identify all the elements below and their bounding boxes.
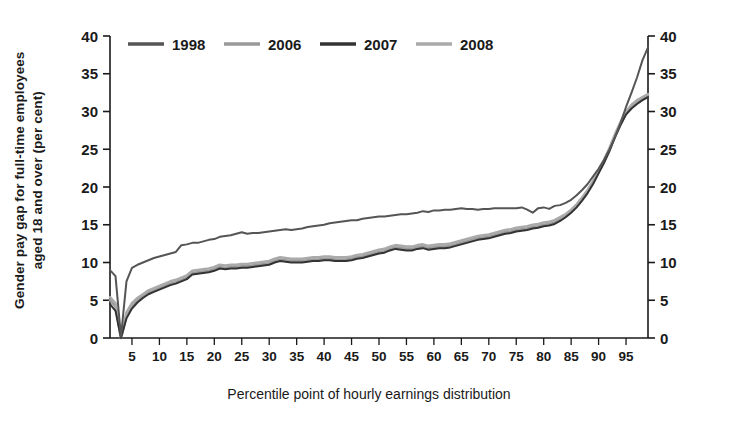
x-axis-tick-label: 85 xyxy=(564,349,580,364)
x-axis-tick-label: 90 xyxy=(591,349,606,364)
x-axis-tick-label: 5 xyxy=(128,349,136,364)
x-axis-tick-label: 80 xyxy=(536,349,551,364)
x-axis-tick-label: 65 xyxy=(454,349,470,364)
x-axis-tick-label: 50 xyxy=(371,349,386,364)
y-axis-tick-label-right: 15 xyxy=(660,216,677,233)
series-group xyxy=(110,47,648,338)
x-axis-label: Percentile point of hourly earnings dist… xyxy=(0,386,738,402)
y-axis-tick-label-left: 30 xyxy=(81,103,98,120)
y-axis-tick-label-left: 10 xyxy=(81,254,98,271)
legend-label-2006: 2006 xyxy=(268,36,301,53)
x-axis-tick-label: 30 xyxy=(262,349,277,364)
legend-label-1998: 1998 xyxy=(172,36,205,53)
y-axis-tick-label-right: 40 xyxy=(660,28,677,45)
y-axis-tick-label-right: 25 xyxy=(660,141,677,158)
y-axis-tick-label-left: 20 xyxy=(81,179,98,196)
x-axis-tick-label: 10 xyxy=(152,349,167,364)
x-axis-tick-label: 15 xyxy=(179,349,195,364)
chart-container: Gender pay gap for full-time employees a… xyxy=(0,0,738,425)
x-axis-tick-label: 25 xyxy=(234,349,250,364)
y-axis-tick-label-left: 5 xyxy=(90,292,98,309)
x-axis-tick-label: 40 xyxy=(317,349,332,364)
x-axis-tick-label: 55 xyxy=(399,349,415,364)
x-axis-tick-label: 45 xyxy=(344,349,360,364)
y-axis-tick-label-left: 0 xyxy=(90,330,98,347)
x-axis-tick-label: 60 xyxy=(426,349,441,364)
series-line-2007 xyxy=(110,97,648,338)
series-line-1998 xyxy=(110,47,648,336)
y-axis-tick-label-right: 0 xyxy=(660,330,668,347)
y-axis-tick-label-left: 35 xyxy=(81,65,98,82)
x-axis-tick-label: 95 xyxy=(619,349,635,364)
chart-plot: 0510152025303540051015202530354051015202… xyxy=(0,0,738,425)
y-axis-tick-label-left: 40 xyxy=(81,28,98,45)
y-axis-tick-label-left: 15 xyxy=(81,216,98,233)
y-axis-tick-label-right: 10 xyxy=(660,254,677,271)
x-axis-tick-label: 75 xyxy=(509,349,525,364)
legend-group: 1998200620072008 xyxy=(128,36,493,53)
y-axis-tick-label-right: 5 xyxy=(660,292,668,309)
y-axis-tick-label-right: 20 xyxy=(660,179,677,196)
y-axis-tick-label-right: 35 xyxy=(660,65,677,82)
y-axis-tick-label-left: 25 xyxy=(81,141,98,158)
y-axis-tick-label-right: 30 xyxy=(660,103,677,120)
x-axis-tick-label: 70 xyxy=(481,349,496,364)
x-axis-tick-label: 35 xyxy=(289,349,305,364)
x-axis-tick-label: 20 xyxy=(207,349,222,364)
legend-label-2007: 2007 xyxy=(364,36,397,53)
axes-group: 0510152025303540051015202530354051015202… xyxy=(81,28,676,365)
legend-label-2008: 2008 xyxy=(460,36,493,53)
